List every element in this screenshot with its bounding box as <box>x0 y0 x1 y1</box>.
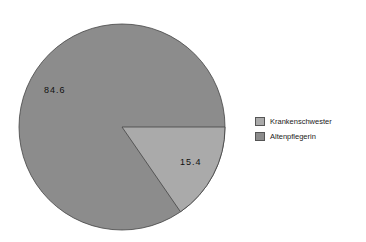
legend-swatch <box>255 117 265 126</box>
legend-item-altenpflegerin: Altenpflegerin <box>255 129 332 144</box>
label-krankenschwester: 15.4 <box>180 157 202 167</box>
legend-label: Altenpflegerin <box>270 132 316 141</box>
legend-item-krankenschwester: Krankenschwester <box>255 114 332 129</box>
legend-label: Krankenschwester <box>270 117 332 126</box>
legend-swatch <box>255 132 265 141</box>
label-altenpflegerin: 84.6 <box>44 85 66 95</box>
legend: Krankenschwester Altenpflegerin <box>255 114 332 144</box>
